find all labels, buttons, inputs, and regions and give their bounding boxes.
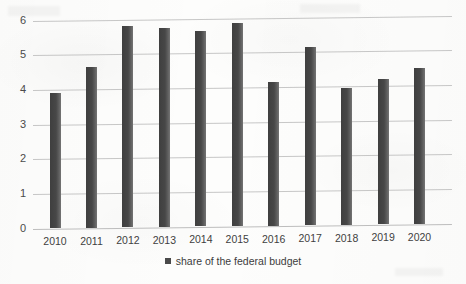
- x-axis-tick-label: 2010: [35, 235, 75, 247]
- y-axis-tick-label: 1: [10, 187, 26, 199]
- bar[interactable]: [122, 26, 133, 227]
- bar[interactable]: [414, 68, 425, 224]
- bar[interactable]: [341, 88, 352, 225]
- x-axis-tick-label: 2015: [217, 233, 257, 245]
- bar[interactable]: [378, 79, 389, 225]
- x-axis-tick-label: 2017: [290, 232, 330, 244]
- x-axis-tick-label: 2018: [327, 232, 367, 244]
- x-axis-tick-label: 2016: [254, 233, 294, 245]
- legend-square-marker-icon: [165, 258, 171, 264]
- x-axis-tick-label: 2019: [363, 231, 403, 243]
- x-axis-tick-label: 2012: [108, 234, 148, 246]
- chart-legend: share of the federal budget: [0, 255, 466, 267]
- x-axis-tick-label: 2011: [71, 235, 111, 247]
- x-axis-tick-label: 2020: [400, 231, 440, 243]
- x-axis-tick-label: 2013: [144, 234, 184, 246]
- y-axis-tick-label: 4: [10, 83, 26, 95]
- bar[interactable]: [305, 47, 316, 226]
- bar[interactable]: [159, 28, 170, 227]
- y-axis-tick-label: 6: [10, 14, 26, 26]
- bar[interactable]: [86, 67, 97, 228]
- gridline: [33, 16, 452, 22]
- chart-page: 6543210201020112012201320142015201620172…: [0, 0, 466, 284]
- plot-area: 6543210201020112012201320142015201620172…: [0, 0, 466, 284]
- bar[interactable]: [268, 82, 279, 226]
- y-axis-tick-label: 0: [10, 222, 26, 234]
- bar[interactable]: [195, 31, 206, 227]
- bar[interactable]: [50, 93, 61, 228]
- y-axis-tick-label: 5: [10, 48, 26, 60]
- x-axis-tick-label: 2014: [181, 233, 221, 245]
- legend-label: share of the federal budget: [176, 255, 302, 267]
- y-axis-tick-label: 2: [10, 152, 26, 164]
- bar[interactable]: [232, 23, 243, 226]
- y-axis-tick-label: 3: [10, 118, 26, 130]
